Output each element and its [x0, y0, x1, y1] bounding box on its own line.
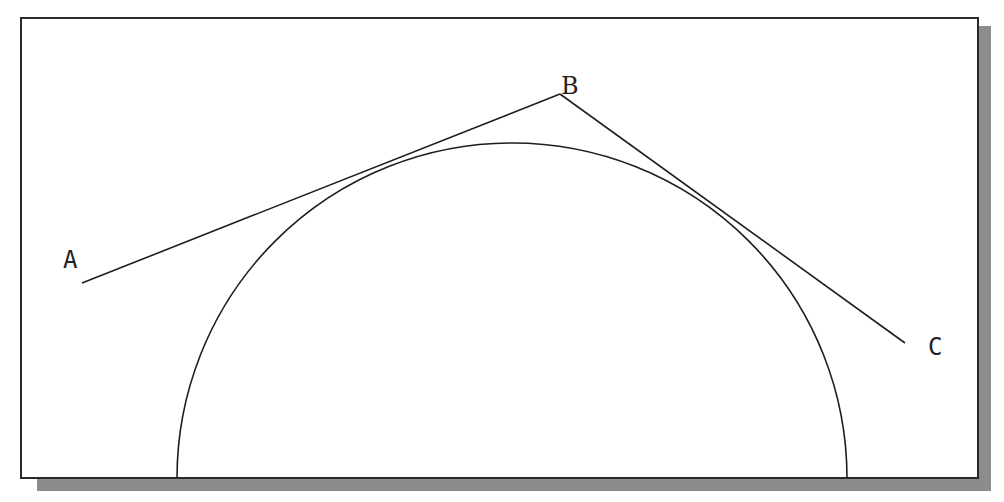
point-label-b: B	[561, 72, 579, 100]
diagram-figure: A B C	[0, 0, 1004, 502]
segment-b-c	[560, 94, 905, 343]
diagram-canvas: A B C	[0, 0, 1004, 502]
tangent-arc	[177, 143, 847, 478]
point-label-c: C	[928, 333, 942, 361]
segment-a-b	[82, 94, 560, 283]
point-label-a: A	[63, 246, 78, 274]
